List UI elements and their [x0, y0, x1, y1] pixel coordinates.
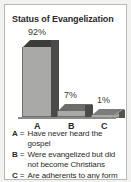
bar-value-label-b: 7%	[64, 90, 77, 100]
bar-value-label-a: 92%	[28, 27, 46, 37]
legend-key-c: C	[12, 171, 20, 180]
legend-text-c: Are adherents to any form of Christianit…	[27, 171, 124, 180]
axis-baseline	[18, 117, 116, 119]
legend-item-b: B = Were evangelized but did not become …	[12, 150, 124, 170]
legend-key-b: B	[12, 150, 20, 160]
legend-equals-a: =	[20, 129, 28, 139]
chart-legend: A = Have never heard the gospel B = Were…	[12, 129, 124, 180]
page-title: Status of Evangelization	[12, 14, 114, 24]
evangelization-chart-card: Status of Evangelization 92% 7% 1% A B C…	[4, 4, 127, 180]
legend-text-a: Have never heard the gospel	[27, 129, 124, 149]
bar-a-front-face	[22, 47, 51, 117]
bar-chart: 92% 7% 1% A B C	[5, 27, 126, 127]
legend-key-a: A	[12, 129, 20, 139]
legend-equals-c: =	[20, 171, 28, 180]
bar-value-label-c: 1%	[97, 95, 110, 105]
legend-equals-b: =	[20, 150, 28, 160]
legend-item-c: C = Are adherents to any form of Christi…	[12, 171, 124, 180]
legend-item-a: A = Have never heard the gospel	[12, 129, 124, 149]
bar-a-side-face	[51, 40, 59, 117]
legend-text-b: Were evangelized but did not become Chri…	[27, 150, 124, 170]
